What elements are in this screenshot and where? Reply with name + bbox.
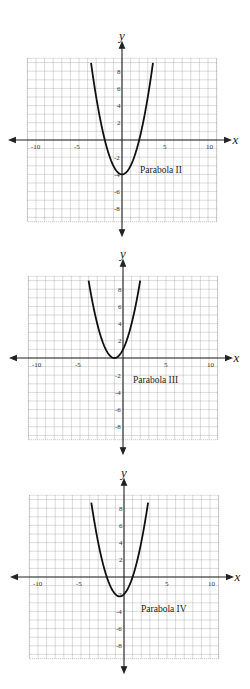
y-tick-label: 6: [119, 522, 123, 530]
graph-parabola-iv: xy-10-55108642-2-4-6-8Parabola IV: [0, 0, 250, 689]
y-tick-label: 8: [119, 505, 123, 513]
y-tick-label: 4: [119, 539, 123, 547]
y-tick-label: 2: [119, 556, 123, 564]
x-tick-label: -5: [76, 580, 82, 588]
arrow-left-icon: [11, 575, 17, 580]
x-tick-label: 5: [165, 580, 169, 588]
y-axis-label: y: [119, 465, 127, 480]
arrow-right-icon: [227, 575, 233, 580]
arrow-down-icon: [122, 667, 127, 673]
x-axis-label: x: [234, 569, 241, 584]
x-tick-label: -10: [33, 580, 43, 588]
y-tick-label: -6: [116, 625, 122, 633]
y-tick-label: -8: [116, 642, 122, 650]
parabola-label: Parabola IV: [141, 604, 187, 614]
x-tick-label: 10: [208, 580, 216, 588]
y-tick-label: -4: [116, 608, 122, 616]
